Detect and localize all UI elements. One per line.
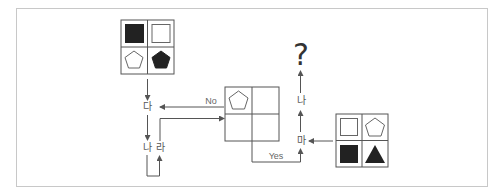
- flowchart-canvas: [0, 0, 497, 194]
- top-grid: [121, 20, 174, 74]
- edge-label-yes: Yes: [269, 152, 284, 161]
- question-mark: ?: [293, 40, 309, 70]
- filled-square-icon: [125, 24, 144, 43]
- outline-square-icon: [341, 119, 358, 136]
- node-label-ra: 라: [156, 143, 165, 153]
- outline-square-icon: [152, 25, 170, 43]
- node-label-na-right: 나: [297, 96, 306, 106]
- node-label-da: 다: [143, 102, 152, 112]
- right-grid: [336, 114, 388, 167]
- center-grid: [225, 87, 279, 141]
- node-label-ma: 마: [297, 136, 306, 146]
- left-flow-arrows: [147, 79, 224, 176]
- edge-label-no: No: [205, 97, 217, 106]
- filled-square-icon: [340, 145, 358, 163]
- node-label-na-left: 나: [143, 143, 152, 153]
